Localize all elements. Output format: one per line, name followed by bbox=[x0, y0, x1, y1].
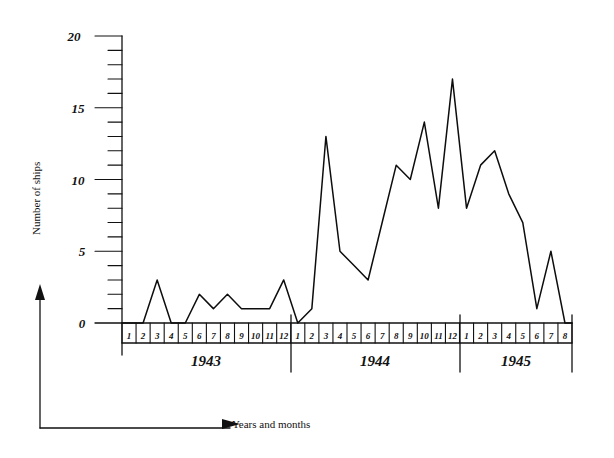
month-tick-label: 6 bbox=[535, 331, 540, 341]
month-tick-label: 11 bbox=[265, 331, 274, 341]
month-tick-label: 8 bbox=[394, 331, 399, 341]
month-tick-label: 11 bbox=[434, 331, 443, 341]
month-tick-label: 5 bbox=[352, 331, 357, 341]
month-tick-label: 12 bbox=[448, 331, 458, 341]
month-tick-label: 1 bbox=[127, 331, 132, 341]
month-tick-label: 12 bbox=[279, 331, 289, 341]
month-tick-label: 7 bbox=[549, 331, 554, 341]
month-tick-label: 10 bbox=[420, 331, 430, 341]
y-tick-label-0: 0 bbox=[79, 316, 86, 331]
y-axis-major-ticks bbox=[95, 36, 122, 251]
month-tick-label: 6 bbox=[366, 331, 371, 341]
month-tick-label: 4 bbox=[337, 331, 343, 341]
year-labels-group: 1943 1944 1945 bbox=[191, 353, 532, 369]
year-label-1945: 1945 bbox=[501, 353, 532, 369]
year-label-1943: 1943 bbox=[191, 353, 222, 369]
month-tick-label: 8 bbox=[563, 331, 568, 341]
year-label-1944: 1944 bbox=[360, 353, 391, 369]
month-tick-label: 9 bbox=[239, 331, 244, 341]
y-axis-title: Number of ships bbox=[30, 162, 42, 235]
month-tick-label: 4 bbox=[505, 331, 511, 341]
month-tick-label: 3 bbox=[491, 331, 497, 341]
month-tick-label: 2 bbox=[309, 331, 315, 341]
month-tick-label: 5 bbox=[521, 331, 526, 341]
data-series-line bbox=[122, 79, 572, 323]
x-axis-title: Years and months bbox=[232, 418, 310, 430]
month-tick-label: 1 bbox=[296, 331, 301, 341]
month-tick-label: 2 bbox=[140, 331, 146, 341]
month-tick-label: 3 bbox=[154, 331, 160, 341]
month-tick-label: 6 bbox=[197, 331, 202, 341]
month-tick-label: 7 bbox=[380, 331, 385, 341]
y-tick-label-20: 20 bbox=[67, 29, 82, 44]
month-tick-label: 5 bbox=[183, 331, 188, 341]
month-tick-label: 10 bbox=[251, 331, 261, 341]
y-tick-label-5: 5 bbox=[79, 244, 86, 259]
month-tick-label: 2 bbox=[477, 331, 483, 341]
chart-canvas: 20 15 10 5 0 Number of ships Years and m… bbox=[0, 0, 614, 458]
month-tick-label: 4 bbox=[168, 331, 174, 341]
month-tick-label: 7 bbox=[211, 331, 216, 341]
month-tick-label: 1 bbox=[464, 331, 469, 341]
y-tick-label-15: 15 bbox=[72, 101, 86, 116]
month-tick-label: 8 bbox=[225, 331, 230, 341]
month-tick-label: 3 bbox=[323, 331, 329, 341]
month-tick-label: 9 bbox=[408, 331, 413, 341]
y-tick-label-10: 10 bbox=[72, 173, 86, 188]
chart-figure: 20 15 10 5 0 Number of ships Years and m… bbox=[0, 0, 614, 458]
